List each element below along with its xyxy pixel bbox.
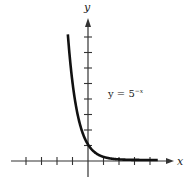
y-axis-label: y: [83, 1, 91, 14]
y-axis-arrow-icon: [85, 18, 91, 27]
plot: x y y = 5−x: [0, 0, 186, 186]
x-axis-arrow-icon: [166, 158, 174, 164]
x-axis-label: x: [177, 155, 184, 168]
equation-exponent: −x: [135, 87, 144, 94]
equation-label: y = 5−x: [107, 87, 144, 99]
equation-main: y = 5: [107, 88, 135, 99]
